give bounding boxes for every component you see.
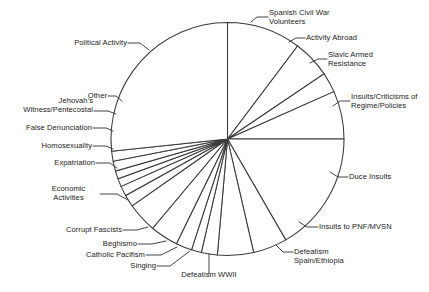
leader-line-corrupt-fascists: [123, 227, 148, 230]
leader-line-homosexuality: [93, 146, 113, 149]
slice-label-beghismo: Beghismo: [78, 239, 137, 248]
slice-label-homosexuality: Homosexuality: [20, 141, 92, 150]
slice-label-catholic-pacifism: Catholic Pacifism: [56, 250, 145, 259]
leader-line-jehovahs-witness: [94, 111, 116, 114]
leader-line-beghismo: [138, 241, 166, 244]
leader-line-defeatism-spain-ethiopia: [276, 245, 293, 252]
leader-line-singing: [157, 251, 190, 266]
leader-line-political-activity: [128, 43, 149, 50]
slice-label-activity-abroad: Activity Abroad: [306, 33, 357, 42]
slice-label-economic-activities: Economic Activities: [38, 184, 99, 203]
leader-line-false-denunciation: [93, 128, 113, 131]
slice-label-slavic-armed-resistance: Slavic Armed Resistance: [328, 50, 373, 69]
slice-label-political-activity: Political Activity: [57, 38, 127, 47]
slice-label-singing: Singing: [100, 261, 156, 270]
pie-chart: Spanish Civil War Volunteers Activity Ab…: [0, 0, 429, 292]
slice-label-corrupt-fascists: Corrupt Fascists: [43, 225, 122, 234]
leader-line-economic-activities: [100, 194, 128, 200]
pie-slices-group: [111, 23, 344, 256]
pie-slice: [111, 23, 227, 152]
leader-line-catholic-pacifism: [146, 247, 177, 255]
slice-label-other: Other: [75, 91, 107, 100]
slice-label-defeatism-spain-ethiopia: Defeatism Spain/Ethiopia: [294, 247, 344, 266]
slice-label-duce-insults: Duce Insults: [349, 172, 391, 181]
leader-line-spanish-civil-war: [251, 17, 268, 22]
slice-label-expatriation: Expatriation: [36, 158, 95, 167]
slice-label-insults-pnf-mvsn: Insults to PNF/MVSN: [319, 222, 392, 231]
slice-label-spanish-civil-war: Spanish Civil War Volunteers: [269, 8, 330, 27]
slice-label-false-denunciation: False Denunciation: [4, 123, 92, 132]
slice-label-defeatism-wwii: Defeatism WWII: [155, 270, 263, 279]
slice-label-insults-criticisms-regime: Insults/Criticisms of Regime/Policies: [351, 92, 417, 111]
